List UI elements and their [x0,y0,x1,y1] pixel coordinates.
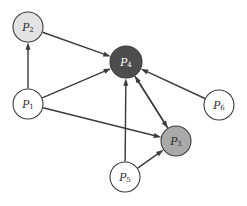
node-p2[interactable]: P2 [13,12,43,42]
edge-p1-to-p2 [26,42,31,88]
node-p1[interactable]: P1 [13,89,43,119]
edge-line [135,76,165,123]
arrowhead-icon [153,133,161,138]
arrowhead-icon [26,42,31,50]
edge-line [125,85,126,162]
edge-p2-to-p4 [43,32,111,56]
edge-p1-to-p4 [42,68,111,98]
arrowhead-icon [103,52,111,57]
arrowhead-icon [141,69,149,74]
graph-figure: P2P4P1P6P3P5 [0,0,247,206]
edge-line [138,153,159,168]
edge-p5-to-p4 [123,78,128,161]
edge-p6-to-p4 [141,69,205,99]
arrowhead-icon [103,68,111,73]
edge-line [43,108,155,136]
node-p5[interactable]: P5 [110,162,140,192]
edge-line [42,71,105,98]
edge-line [43,32,105,54]
edge-p1-to-p3 [43,108,161,138]
edge-p5-to-p3 [138,150,164,168]
edge-p4-to-p3 [135,76,168,128]
node-p4[interactable]: P4 [110,46,142,78]
graph-canvas: P2P4P1P6P3P5 [0,0,247,206]
edge-line [146,71,205,98]
nodes-layer: P2P4P1P6P3P5 [13,12,234,192]
arrowhead-icon [123,78,128,86]
arrowhead-icon [162,120,168,128]
node-p6[interactable]: P6 [204,90,234,120]
node-p3[interactable]: P3 [161,126,191,156]
